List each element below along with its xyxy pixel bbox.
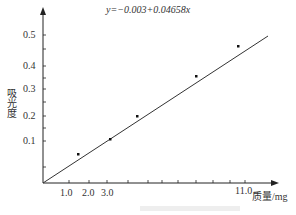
y-axis-label: 吸光度 bbox=[4, 88, 16, 118]
y-tick-label: 0.1 bbox=[23, 135, 36, 146]
y-tick-label: 0.4 bbox=[23, 60, 36, 71]
data-point bbox=[195, 75, 198, 78]
y-tick-label: 0.3 bbox=[23, 83, 36, 94]
data-point bbox=[109, 138, 112, 141]
x-axis-arrow-icon bbox=[271, 180, 279, 186]
regression-equation: y=−0.003+0.04658x bbox=[105, 4, 191, 15]
fit-line bbox=[43, 36, 268, 183]
y-tick-label: 0.5 bbox=[23, 29, 36, 40]
y-tick-label: 0.2 bbox=[23, 110, 36, 121]
caption-placeholder bbox=[140, 206, 240, 211]
x-tick-labels: 1.0 2.0 3.0 11.0 bbox=[60, 185, 252, 198]
y-axis-arrow-icon bbox=[40, 7, 46, 15]
data-points bbox=[77, 45, 240, 156]
x-tick-label: 11.0 bbox=[235, 185, 252, 196]
x-tick-label: 1.0 bbox=[60, 187, 73, 198]
calibration-chart: 0.1 0.2 0.3 0.4 0.5 1.0 2.0 3.0 11.0 y=−… bbox=[0, 0, 296, 215]
data-point bbox=[237, 45, 240, 48]
x-tick-label: 3.0 bbox=[101, 187, 114, 198]
y-tick-labels: 0.1 0.2 0.3 0.4 0.5 bbox=[23, 29, 36, 146]
data-point bbox=[136, 115, 139, 118]
x-tick-label: 2.0 bbox=[82, 187, 95, 198]
x-axis-label: 质量/mg bbox=[252, 188, 288, 203]
data-point bbox=[77, 153, 80, 156]
axes bbox=[43, 12, 272, 183]
